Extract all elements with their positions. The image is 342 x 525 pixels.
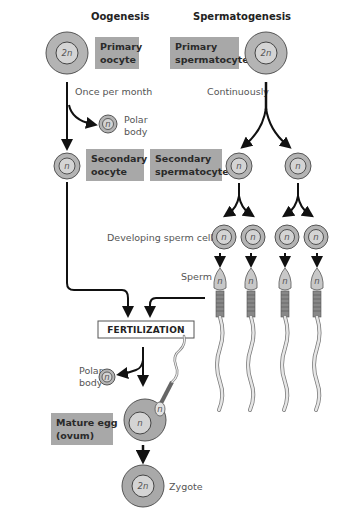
sperm-entering-egg: n bbox=[155, 336, 185, 416]
svg-text:Mature egg: Mature egg bbox=[56, 417, 118, 428]
svg-text:n: n bbox=[157, 404, 162, 414]
sperm-cell: n bbox=[279, 268, 291, 410]
mature-egg-box: Mature egg (ovum) bbox=[51, 413, 118, 445]
developing-sperm-cell: n bbox=[212, 225, 236, 249]
svg-text:(ovum): (ovum) bbox=[56, 430, 94, 441]
primary-spermatocyte-box: Primary spermatocyte bbox=[170, 37, 249, 69]
arrow-to-secondary-spermatocyte-1 bbox=[245, 108, 266, 145]
fertilization-box: FERTILIZATION bbox=[98, 321, 194, 338]
svg-text:n: n bbox=[221, 232, 226, 242]
continuously-label: Continuously bbox=[207, 86, 269, 97]
svg-text:n: n bbox=[284, 232, 289, 242]
svg-text:n: n bbox=[314, 276, 319, 286]
svg-text:oocyte: oocyte bbox=[91, 166, 127, 177]
sperm-cell: n bbox=[311, 268, 323, 410]
primary-oocyte-cell: 2n bbox=[46, 32, 88, 74]
svg-text:spermatocyte: spermatocyte bbox=[155, 166, 229, 177]
svg-text:oocyte: oocyte bbox=[100, 54, 136, 65]
secondary-oocyte-cell: n bbox=[54, 153, 80, 179]
sperm-label: Sperm bbox=[181, 271, 212, 282]
fork-arrows bbox=[228, 183, 309, 214]
primary-spermatocyte-cell: 2n bbox=[245, 32, 287, 74]
zygote-cell: 2n bbox=[122, 465, 164, 507]
arrow-to-polar-body bbox=[69, 105, 92, 124]
svg-text:Secondary: Secondary bbox=[155, 153, 212, 164]
spermatogenesis-header: Spermatogenesis bbox=[193, 11, 291, 22]
sperm-arrows bbox=[220, 253, 317, 262]
svg-text:n: n bbox=[64, 161, 69, 171]
svg-text:2n: 2n bbox=[261, 48, 272, 58]
once-per-month-label: Once per month bbox=[75, 86, 152, 97]
svg-text:n: n bbox=[104, 372, 109, 382]
developing-sperm-label: Developing sperm cells bbox=[107, 232, 218, 243]
polar-body-cell: n bbox=[99, 115, 117, 133]
svg-text:Primary: Primary bbox=[100, 41, 143, 52]
arrow-sperm-to-fertilization bbox=[150, 298, 205, 312]
secondary-oocyte-box: Secondary oocyte bbox=[86, 149, 148, 181]
secondary-spermatocyte-cell: n bbox=[226, 153, 252, 179]
primary-oocyte-box: Primary oocyte bbox=[95, 37, 143, 69]
svg-text:2n: 2n bbox=[138, 481, 149, 491]
svg-text:n: n bbox=[313, 232, 318, 242]
svg-text:Primary: Primary bbox=[175, 41, 218, 52]
svg-text:n: n bbox=[248, 276, 253, 286]
polar-body-cell-2: n bbox=[99, 369, 115, 385]
svg-text:n: n bbox=[137, 418, 142, 428]
gametogenesis-diagram: Oogenesis Spermatogenesis 2n Primary ooc… bbox=[0, 0, 342, 525]
arrow-to-polar-body-2 bbox=[122, 347, 143, 374]
oogenesis-header: Oogenesis bbox=[91, 11, 150, 22]
svg-text:n: n bbox=[250, 232, 255, 242]
svg-text:spermatocyte: spermatocyte bbox=[175, 54, 249, 65]
developing-sperm-cell: n bbox=[241, 225, 265, 249]
svg-text:n: n bbox=[282, 276, 287, 286]
secondary-spermatocyte-cell: n bbox=[285, 153, 311, 179]
sperm-cell: n bbox=[214, 268, 226, 410]
arrow-oocyte-to-fertilization bbox=[67, 182, 128, 312]
secondary-spermatocyte-box: Secondary spermatocyte bbox=[150, 149, 229, 181]
svg-text:n: n bbox=[236, 161, 241, 171]
svg-text:FERTILIZATION: FERTILIZATION bbox=[107, 325, 184, 335]
svg-text:body: body bbox=[124, 126, 148, 137]
sperm-cell: n bbox=[245, 268, 257, 410]
svg-text:n: n bbox=[105, 119, 110, 129]
polar-body-label: Polar bbox=[124, 114, 148, 125]
zygote-label: Zygote bbox=[169, 481, 203, 492]
developing-sperm-cell: n bbox=[304, 225, 328, 249]
arrow-to-secondary-spermatocyte-2 bbox=[266, 108, 287, 145]
ploidy-label: 2n bbox=[62, 48, 73, 58]
svg-text:n: n bbox=[217, 276, 222, 286]
developing-sperm-cell: n bbox=[275, 225, 299, 249]
svg-text:Secondary: Secondary bbox=[91, 153, 148, 164]
svg-text:n: n bbox=[295, 161, 300, 171]
